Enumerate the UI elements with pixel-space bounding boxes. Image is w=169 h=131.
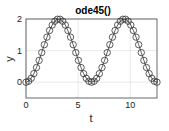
y-tick-label: 0	[17, 77, 22, 87]
y-tick-label: 2	[17, 14, 22, 24]
chart-title: ode45()	[75, 5, 111, 16]
grid-lines	[26, 19, 157, 98]
y-tick-label: 1	[17, 46, 22, 56]
x-axis-label: t	[89, 112, 92, 124]
y-tick-labels: 012	[17, 14, 22, 87]
x-tick-labels: 0510	[23, 100, 135, 110]
axes-box	[26, 19, 157, 98]
x-tick-label: 5	[76, 100, 81, 110]
x-tick-label: 10	[125, 100, 135, 110]
chart: ode45() 0510 012 t y	[0, 0, 169, 131]
y-axis-label: y	[3, 56, 15, 62]
x-tick-label: 0	[23, 100, 28, 110]
